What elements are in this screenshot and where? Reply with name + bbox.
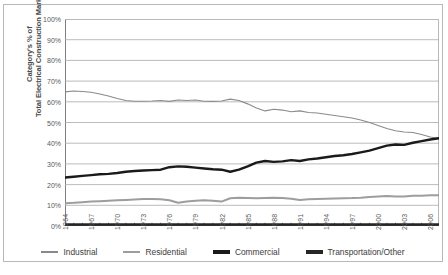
legend-swatch — [306, 250, 323, 254]
x-axis-tick-label: 1991 — [296, 214, 303, 230]
clipped-caption-text — [8, 270, 338, 274]
plot-wrap: 0%10%20%30%40%50%60%70%80%90%100%1964196… — [65, 19, 439, 226]
x-axis-tick-label: 2003 — [401, 214, 408, 230]
chart-frame: Category's % of Total Electrical Constru… — [3, 4, 443, 262]
series-line-industrial — [65, 91, 439, 139]
x-axis-tick-label: 1985 — [244, 214, 251, 230]
legend-item: Residential — [123, 247, 186, 257]
y-axis-tick-label: 30% — [47, 160, 61, 167]
legend-label: Commercial — [235, 247, 280, 257]
y-axis-title-line-1: Category's % of — [25, 0, 34, 154]
x-axis-tick-label: 1967 — [88, 214, 95, 230]
x-axis-tick-label: 2006 — [427, 214, 434, 230]
y-axis-tick-label: 0% — [51, 223, 61, 230]
legend-swatch — [41, 251, 58, 252]
chart-canvas — [65, 19, 439, 226]
legend-item: Commercial — [213, 247, 280, 257]
y-axis-title: Category's % of Total Electrical Constru… — [25, 0, 43, 154]
y-axis-tick-label: 80% — [47, 57, 61, 64]
y-axis-tick-label: 70% — [47, 78, 61, 85]
y-axis-title-line-2: Total Electrical Construction Market — [34, 0, 43, 154]
x-axis-tick-label: 1964 — [62, 214, 69, 230]
series-line-residential — [65, 195, 439, 203]
legend-label: Transportation/Other — [328, 247, 405, 257]
legend-item: Industrial — [41, 247, 97, 257]
x-axis-tick-label: 1970 — [114, 214, 121, 230]
x-axis-tick-label: 1997 — [349, 214, 356, 230]
y-axis-tick-label: 60% — [47, 98, 61, 105]
x-axis-tick-label: 1982 — [218, 214, 225, 230]
x-axis-tick-label: 1994 — [322, 214, 329, 230]
y-axis-tick-label: 90% — [47, 36, 61, 43]
y-axis-tick-label: 100% — [43, 16, 61, 23]
x-axis-tick-label: 1988 — [270, 214, 277, 230]
y-axis-tick-label: 40% — [47, 140, 61, 147]
x-axis-tick-label: 1979 — [192, 214, 199, 230]
series-line-commercial — [65, 138, 439, 177]
x-axis-tick-label: 1976 — [166, 214, 173, 230]
chart-figure: Category's % of Total Electrical Constru… — [0, 0, 448, 275]
legend-label: Residential — [145, 247, 186, 257]
x-axis-tick-label: 1973 — [140, 214, 147, 230]
legend-label: Industrial — [63, 247, 97, 257]
y-axis-tick-label: 10% — [47, 202, 61, 209]
legend-swatch — [213, 250, 230, 253]
chart-legend: IndustrialResidentialCommercialTransport… — [3, 247, 443, 257]
y-axis-tick-label: 20% — [47, 181, 61, 188]
x-axis-tick-label: 2000 — [375, 214, 382, 230]
y-axis-tick-label: 50% — [47, 119, 61, 126]
legend-swatch — [123, 251, 140, 254]
legend-item: Transportation/Other — [306, 247, 405, 257]
